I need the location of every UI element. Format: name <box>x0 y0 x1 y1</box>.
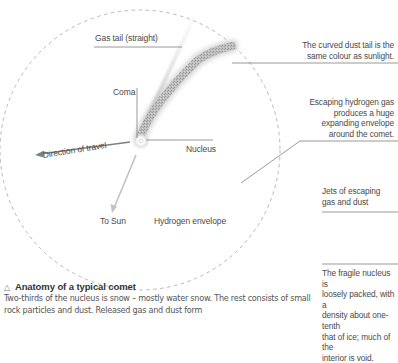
hydrogen-envelope-label: Hydrogen envelope <box>154 216 226 227</box>
note-line: density about one-tenth <box>322 310 398 331</box>
sun-arrow-line <box>114 155 136 208</box>
caption-body: Two-thirds of the nucleus is snow – most… <box>4 293 324 316</box>
note-line: interior is void. <box>322 353 398 363</box>
to-sun-label: To Sun <box>100 216 126 227</box>
caption-title-text: Anatomy of a typical comet <box>15 281 136 292</box>
dust-tail-note: The curved dust tail is the same colour … <box>270 40 394 61</box>
hydrogen-gas-note: Escaping hydrogen gas produces a huge ex… <box>290 97 394 139</box>
coma-label: Coma <box>113 87 135 98</box>
note-line: that of ice; much of the <box>322 332 398 353</box>
dust-tail <box>140 46 232 138</box>
dust-tail-glow <box>140 46 232 138</box>
note-line: Escaping hydrogen gas <box>290 97 394 108</box>
note-line: Jets of escaping <box>322 186 398 197</box>
note-line: produces a huge <box>290 108 394 119</box>
hydrogen-gas-leader <box>241 141 398 183</box>
gas-tail-label: Gas tail (straight) <box>95 33 158 44</box>
fragile-nucleus-note: The fragile nucleus is loosely packed, w… <box>322 268 398 363</box>
note-line: The curved dust tail is the <box>270 40 394 51</box>
note-line: same colour as sunlight. <box>270 51 394 62</box>
note-line: The fragile nucleus is <box>322 268 398 289</box>
nucleus-label: Nucleus <box>186 144 216 155</box>
note-line: around the comet. <box>290 129 394 140</box>
nucleus <box>139 139 143 143</box>
note-line: loosely packed, with a <box>322 289 398 310</box>
note-line: gas and dust <box>322 197 398 208</box>
triangle-icon: △ <box>4 283 10 292</box>
caption-title: △Anatomy of a typical comet <box>4 281 136 292</box>
note-line: expanding envelope <box>290 118 394 129</box>
jets-note: Jets of escaping gas and dust <box>322 186 398 207</box>
arrow-down-icon <box>111 204 118 213</box>
